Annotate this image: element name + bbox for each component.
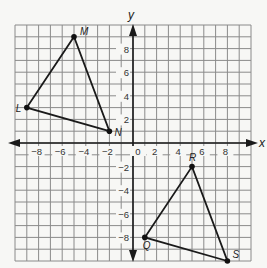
y-tick-label: 6 bbox=[124, 67, 129, 78]
triangles: LMNQRS bbox=[16, 26, 240, 264]
y-tick-label: 4 bbox=[124, 91, 129, 102]
x-tick-label: −8 bbox=[31, 146, 42, 157]
y-tick-label: −8 bbox=[118, 232, 129, 243]
vertex-point-r bbox=[189, 164, 195, 170]
vertex-label-m: M bbox=[80, 26, 89, 37]
y-tick-label: 8 bbox=[124, 44, 129, 55]
vertex-label-r: R bbox=[189, 152, 196, 163]
x-tick-label: −4 bbox=[78, 146, 89, 157]
y-axis-up-arrow-icon bbox=[129, 24, 137, 36]
vertex-label-n: N bbox=[114, 127, 122, 138]
y-axis-label: y bbox=[127, 8, 135, 22]
vertex-point-s bbox=[225, 258, 231, 264]
x-tick-label: 0 bbox=[135, 146, 140, 157]
vertex-point-n bbox=[107, 128, 113, 134]
x-axis-left-arrow-icon bbox=[8, 139, 20, 147]
vertex-point-q bbox=[142, 235, 148, 241]
x-tick-label: 4 bbox=[176, 146, 181, 157]
y-axis-down-arrow-icon bbox=[129, 250, 137, 262]
y-tick-label: −4 bbox=[118, 185, 129, 196]
x-axis-right-arrow-icon bbox=[246, 139, 258, 147]
vertex-label-l: L bbox=[16, 103, 22, 114]
y-tick-label: −2 bbox=[118, 162, 129, 173]
x-tick-label: 2 bbox=[152, 146, 157, 157]
y-tick-label: −6 bbox=[118, 209, 129, 220]
coordinate-plane: x y −8−6−4−2024688642−2−4−6−8 LMNQRS bbox=[0, 0, 267, 268]
vertex-point-m bbox=[71, 34, 77, 40]
vertex-label-q: Q bbox=[143, 240, 151, 251]
x-tick-label: −2 bbox=[102, 146, 113, 157]
x-tick-label: 8 bbox=[223, 146, 228, 157]
y-tick-label: 2 bbox=[124, 114, 129, 125]
x-axis-label: x bbox=[258, 136, 266, 150]
vertex-label-s: S bbox=[232, 249, 239, 260]
vertex-point-l bbox=[24, 105, 30, 111]
x-tick-label: 6 bbox=[199, 146, 204, 157]
x-tick-label: −6 bbox=[55, 146, 66, 157]
